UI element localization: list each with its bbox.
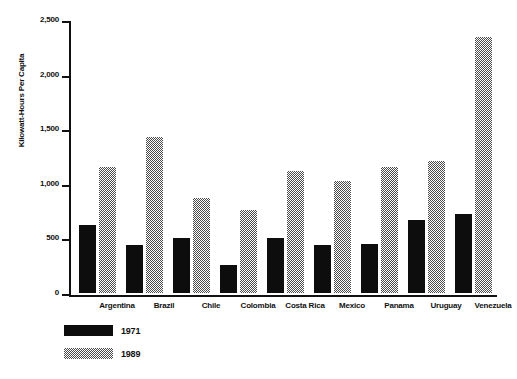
legend-label-1989: 1989 xyxy=(121,349,140,359)
y-tick-label-500: 500 xyxy=(46,233,59,242)
y-tick-1000: 1,000 xyxy=(62,185,69,187)
bar-1989 xyxy=(381,167,398,293)
bar-1989 xyxy=(475,37,492,293)
bar-1971 xyxy=(455,214,472,293)
legend-swatch-1971 xyxy=(64,325,113,336)
bar-1971 xyxy=(361,244,378,293)
bar-1971 xyxy=(126,245,143,293)
plot-area: 0 500 1,000 1,500 2,000 2,500 ArgentinaB… xyxy=(69,21,497,295)
y-tick-label-1000: 1,000 xyxy=(40,179,59,188)
y-tick-1500: 1,500 xyxy=(62,130,69,132)
bar-1989 xyxy=(146,137,163,293)
y-tick-label-2500: 2,500 xyxy=(40,15,59,24)
bar-1971 xyxy=(79,225,96,293)
y-tick-label-0: 0 xyxy=(55,288,59,297)
y-axis-line xyxy=(69,21,71,296)
bar-1989 xyxy=(287,171,304,293)
x-axis-category-label: Venezuela xyxy=(443,301,517,310)
y-axis-title: Kilowatt-Hours Per Capita xyxy=(17,36,26,166)
bar-1989 xyxy=(99,167,116,293)
y-tick-label-2000: 2,000 xyxy=(40,70,59,79)
bar-1971 xyxy=(408,220,425,293)
bar-1989 xyxy=(428,161,445,293)
x-axis-line xyxy=(69,295,497,297)
y-tick-0: 0 xyxy=(62,294,69,296)
bar-1971 xyxy=(220,265,237,293)
bar-1989 xyxy=(334,181,351,293)
y-tick-500: 500 xyxy=(62,239,69,241)
bar-1989 xyxy=(193,198,210,293)
legend-swatch-1989 xyxy=(64,348,113,359)
y-tick-2000: 2,000 xyxy=(62,76,69,78)
y-tick-2500: 2,500 xyxy=(62,21,69,23)
bar-1971 xyxy=(314,245,331,293)
legend-label-1971: 1971 xyxy=(121,326,140,336)
y-tick-label-1500: 1,500 xyxy=(40,124,59,133)
bar-1989 xyxy=(240,210,257,293)
bar-1971 xyxy=(173,238,190,293)
bar-1971 xyxy=(267,238,284,293)
